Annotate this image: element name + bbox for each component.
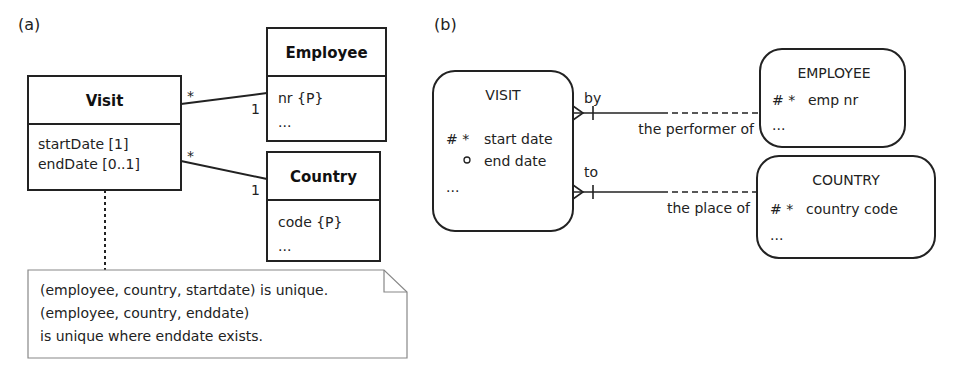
entity-visit: VISIT # * start date end date ... [433, 71, 573, 231]
rel-label-by: by [584, 90, 601, 106]
relationship-visit-employee: by the performer of [573, 90, 760, 137]
entity-name-country: COUNTRY [812, 172, 880, 188]
rel-label-performer: the performer of [638, 121, 755, 137]
multiplicity-many: * [187, 88, 194, 104]
attr-ellipsis: ... [278, 114, 291, 130]
diagram-canvas: (a) Visit startDate [1] endDate [0..1] E… [0, 0, 963, 378]
relationship-visit-country: to the place of [573, 164, 757, 216]
class-name-employee: Employee [285, 44, 367, 62]
entity-name-visit: VISIT [485, 87, 521, 103]
attr-ellipsis: ... [278, 238, 291, 254]
attr-start-date: start date [484, 131, 553, 147]
uml-class-country: Country code {P} ... [267, 152, 380, 261]
attr-code: code {P} [278, 214, 342, 230]
class-name-visit: Visit [86, 92, 124, 110]
entity-country: COUNTRY # * country code ... [757, 156, 935, 258]
attr-marker: # * [446, 131, 469, 147]
uml-note: (employee, country, startdate) is unique… [28, 270, 407, 358]
attr-country-code: country code [806, 201, 898, 217]
multiplicity-one: 1 [251, 182, 260, 198]
entity-name-employee: EMPLOYEE [797, 65, 870, 81]
multiplicity-many: * [187, 148, 194, 164]
attr-startdate: startDate [1] [38, 136, 128, 152]
attr-emp-nr: emp nr [808, 92, 858, 108]
uml-class-visit: Visit startDate [1] endDate [0..1] [28, 76, 181, 190]
class-name-country: Country [290, 168, 357, 186]
entity-employee: EMPLOYEE # * emp nr ... [760, 49, 905, 147]
attr-ellipsis: ... [772, 117, 785, 133]
note-line-1: (employee, country, startdate) is unique… [40, 282, 328, 298]
attr-enddate: endDate [0..1] [38, 156, 140, 172]
note-line-3: is unique where enddate exists. [40, 328, 263, 344]
rel-label-place: the place of [667, 200, 751, 216]
attr-marker: # * [770, 201, 793, 217]
rel-label-to: to [584, 164, 598, 180]
panel-a-label: (a) [18, 15, 40, 34]
multiplicity-one: 1 [251, 101, 260, 117]
panel-b-label: (b) [434, 15, 457, 34]
attr-marker: # * [772, 92, 795, 108]
note-line-2: (employee, country, enddate) [40, 305, 249, 321]
association-visit-country: * 1 [181, 148, 267, 198]
attr-end-date: end date [484, 153, 546, 169]
association-visit-employee: * 1 [181, 88, 267, 117]
attr-ellipsis: ... [446, 179, 459, 195]
attr-ellipsis: ... [770, 227, 783, 243]
uml-class-employee: Employee nr {P} ... [267, 28, 386, 141]
attr-nr: nr {P} [278, 90, 323, 106]
